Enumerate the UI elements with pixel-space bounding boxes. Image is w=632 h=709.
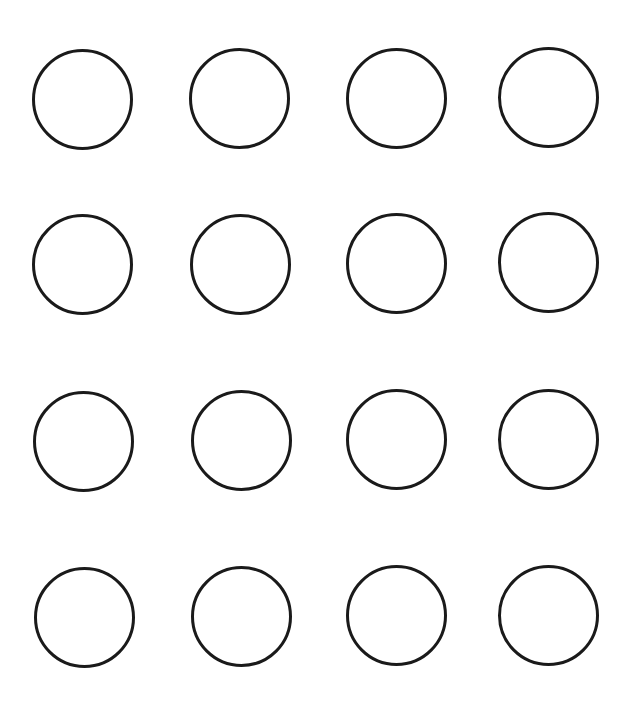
circle-r2-c1 — [32, 214, 133, 315]
circle-r4-c1 — [34, 567, 135, 668]
circle-r4-c2 — [191, 566, 292, 667]
circle-r3-c1 — [33, 391, 134, 492]
circle-r4-c3 — [346, 565, 447, 666]
circle-r3-c3 — [346, 389, 447, 490]
circle-grid-canvas — [0, 0, 632, 709]
circle-r3-c2 — [191, 390, 292, 491]
circle-r1-c4 — [498, 47, 599, 148]
circle-r1-c2 — [189, 48, 290, 149]
circle-r4-c4 — [498, 565, 599, 666]
circle-r3-c4 — [498, 389, 599, 490]
circle-r2-c4 — [498, 212, 599, 313]
circle-r1-c1 — [32, 49, 133, 150]
circle-r2-c2 — [190, 214, 291, 315]
circle-r1-c3 — [346, 48, 447, 149]
circle-r2-c3 — [346, 213, 447, 314]
